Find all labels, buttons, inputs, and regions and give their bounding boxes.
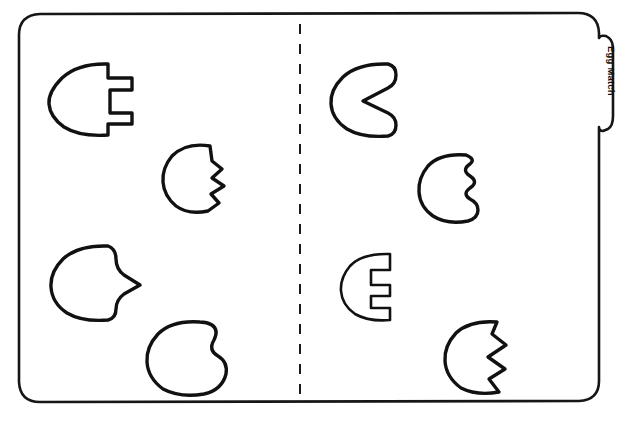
egg-match-worksheet: Egg Match xyxy=(0,0,622,421)
tab-label: Egg Match xyxy=(606,46,617,96)
egg-piece-wavy-scallop[interactable] xyxy=(419,155,478,222)
worksheet-canvas: Egg Match xyxy=(0,0,622,421)
egg-piece-round-lobe[interactable] xyxy=(147,322,226,395)
